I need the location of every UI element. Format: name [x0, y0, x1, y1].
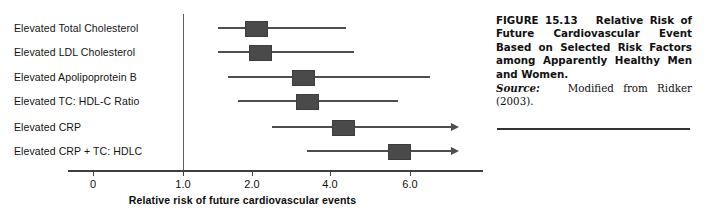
x-axis-tick-4: [410, 170, 411, 176]
ci-arrow-head-icon: [451, 147, 459, 155]
x-axis-tick-label-4: 6.0: [402, 178, 417, 190]
reference-line-at-1: [183, 14, 184, 170]
caption-figure-number: FIGURE 15.13: [496, 14, 578, 26]
forest-plot-figure: Elevated Total Cholesterol Elevated LDL …: [0, 0, 485, 213]
confidence-interval-line: [218, 27, 347, 29]
point-estimate-marker: [249, 45, 272, 61]
x-axis-line: [68, 170, 483, 172]
caption-text-block: FIGURE 15.13 Relative Risk of Future Car…: [496, 14, 692, 81]
x-axis-tick-2: [252, 170, 253, 176]
caption-source-label: Source:: [496, 82, 540, 94]
caption-source-space: [549, 82, 558, 94]
ci-arrow-head-icon: [451, 123, 459, 131]
x-axis-title: Relative risk of future cardiovascular e…: [0, 194, 485, 206]
point-estimate-marker: [332, 120, 355, 136]
caption-divider-rule: [497, 128, 690, 130]
point-estimate-marker: [296, 94, 319, 110]
x-axis-tick-label-3: 4.0: [322, 178, 337, 190]
point-estimate-marker: [292, 70, 315, 86]
confidence-interval-line: [218, 51, 355, 53]
caption-source-block: Source: Modified from Ridker (2003).: [496, 82, 692, 109]
point-estimate-marker: [388, 144, 411, 160]
x-axis-tick-1: [183, 170, 184, 176]
confidence-interval-line: [307, 150, 452, 152]
x-axis-tick-label-0: 0: [90, 178, 96, 190]
figure-caption: FIGURE 15.13 Relative Risk of Future Car…: [496, 14, 692, 109]
x-axis-tick-3: [330, 170, 331, 176]
x-axis-tick-0: [93, 170, 94, 176]
confidence-interval-line: [228, 76, 430, 78]
plot-area: [0, 0, 485, 175]
x-axis-tick-label-2: 2.0: [244, 178, 259, 190]
point-estimate-marker: [245, 21, 268, 37]
caption-space: [584, 14, 590, 26]
x-axis-tick-label-1: 1.0: [175, 178, 190, 190]
confidence-interval-line: [272, 126, 453, 128]
